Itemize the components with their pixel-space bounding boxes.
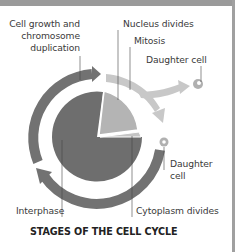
ring-arrowhead-top [92,66,101,82]
label-nucleus-divides: Nucleus divides [123,18,194,30]
label-cytoplasm-divides: Cytoplasm divides [136,205,219,217]
daughter-arrowhead-right [178,80,190,94]
label-cell-growth-line3: duplication [6,42,80,54]
label-daughter-cell-right-line1: Daughter [170,158,212,170]
label-daughter-cell-top: Daughter cell [146,54,207,66]
label-mitosis: Mitosis [134,35,165,47]
label-daughter-cell-right-line2: cell [170,170,212,182]
daughter-cell-top-nucleus [197,81,201,85]
diagram-title: STAGES OF THE CELL CYCLE [30,226,177,237]
label-cell-growth-line1: Cell growth and [6,18,80,30]
label-daughter-cell-right: Daughter cell [170,158,212,182]
label-cell-growth-line2: chromosome [6,30,80,42]
label-interphase: Interphase [16,205,64,217]
mitosis-sector [99,91,138,135]
mitosis-arrowhead-down [152,108,165,123]
label-cell-growth: Cell growth and chromosome duplication [6,18,80,54]
daughter-cell-right-nucleus [162,140,166,144]
